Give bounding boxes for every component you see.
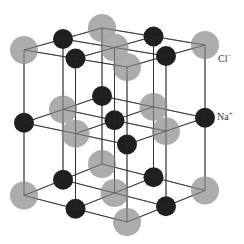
chloride-label-charge: − — [227, 52, 231, 60]
nacl-lattice-diagram — [0, 0, 244, 244]
chloride-ion-label: Cl− — [218, 53, 231, 64]
sodium-ion-label: Na+ — [217, 111, 233, 122]
sodium-label-charge: + — [229, 110, 233, 118]
sodium-label-text: Na — [217, 111, 229, 122]
